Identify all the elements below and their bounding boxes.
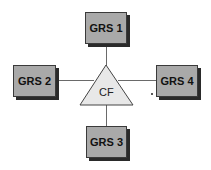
node-box: GRS 1: [85, 12, 127, 44]
cf-label: CF: [99, 86, 114, 98]
node-box: GRS 4: [156, 65, 198, 97]
node-box: GRS 3: [86, 126, 127, 158]
stray-dot: [151, 93, 153, 95]
node-box: GRS 2: [13, 65, 56, 97]
